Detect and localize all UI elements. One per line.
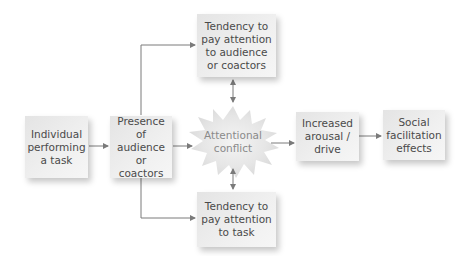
node-attention-to-audience: Tendency to pay attention to audience or… [197, 14, 276, 77]
node-label: Social facilitation effects [386, 116, 441, 155]
node-presence-of-audience: Presence of audience or coactors [110, 116, 172, 178]
node-label: Increased arousal / drive [302, 117, 353, 156]
node-social-facilitation-effects: Social facilitation effects [383, 110, 445, 160]
node-attention-to-task: Tendency to pay attention to task [197, 192, 276, 247]
node-label: Presence of audience or coactors [114, 115, 168, 180]
node-increased-arousal: Increased arousal / drive [296, 112, 359, 161]
node-label: Tendency to pay attention to audience or… [201, 20, 272, 72]
node-individual-performing-task: Individual performing a task [25, 116, 88, 178]
node-attentional-conflict-label: Attentional conflict [198, 129, 268, 155]
node-label: Tendency to pay attention to task [201, 200, 272, 239]
node-label: Individual performing a task [27, 128, 85, 167]
